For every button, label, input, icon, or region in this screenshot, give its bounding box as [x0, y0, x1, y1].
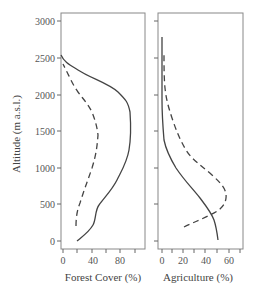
- y-tick-3000: 3000: [35, 16, 55, 27]
- agriculture-solid-line: [162, 37, 218, 240]
- y-tick-2000: 2000: [35, 90, 55, 101]
- agriculture-panel: 0 20 40 60 Agriculture (%): [154, 13, 243, 284]
- y-tick-0: 0: [50, 236, 55, 247]
- forest-solid-line: [61, 55, 131, 241]
- agriculture-dashed-line: [164, 53, 226, 227]
- forest-dashed-line: [63, 64, 98, 226]
- right-x-axis-title: Agriculture (%): [163, 271, 233, 284]
- left-x-tick-40: 40: [88, 255, 98, 266]
- altitude-landcover-chart: Altitude (m a.s.l.) 3000 2500 2000 1500 …: [0, 0, 258, 301]
- right-panel-frame: [158, 13, 243, 249]
- right-x-tick-40: 40: [201, 255, 211, 266]
- left-x-axis-title: Forest Cover (%): [65, 271, 142, 284]
- y-tick-labels: 3000 2500 2000 1500 1000 500 0: [35, 16, 55, 247]
- y-tick-1000: 1000: [35, 163, 55, 174]
- y-tick-500: 500: [40, 199, 55, 210]
- forest-cover-panel: 0 40 80 Forest Cover (%): [57, 13, 145, 284]
- left-x-tick-0: 0: [61, 255, 66, 266]
- y-tick-1500: 1500: [35, 126, 55, 137]
- y-axis-title: Altitude (m a.s.l.): [10, 95, 23, 173]
- right-x-tick-60: 60: [224, 255, 234, 266]
- right-x-tick-0: 0: [160, 255, 165, 266]
- y-tick-2500: 2500: [35, 53, 55, 64]
- left-x-tick-80: 80: [115, 255, 125, 266]
- right-x-tick-20: 20: [178, 255, 188, 266]
- left-panel-frame: [61, 13, 145, 249]
